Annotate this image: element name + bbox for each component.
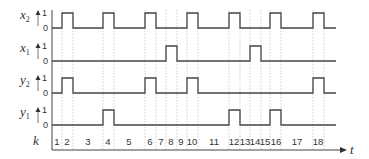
level-high-label: 1 — [42, 8, 47, 18]
arrowhead-icon — [36, 107, 41, 112]
k-tick-label: 13 — [240, 136, 251, 147]
level-high-label: 1 — [42, 41, 47, 51]
signal-label: y2 — [18, 72, 30, 89]
k-tick-label: 18 — [313, 136, 324, 147]
grid-lines — [62, 10, 324, 150]
k-tick-label: 6 — [147, 136, 152, 147]
k-tick-label: 4 — [105, 136, 110, 147]
level-low-label: 0 — [43, 88, 48, 98]
k-tick-label: 10 — [187, 136, 198, 147]
arrowhead-icon — [36, 10, 41, 15]
k-tick-label: 15 — [260, 136, 271, 147]
waveforms — [52, 13, 336, 125]
k-tick-label: 17 — [292, 136, 303, 147]
waveform-x2 — [52, 13, 336, 28]
level-low-label: 0 — [43, 56, 48, 66]
arrowhead-icon — [36, 75, 41, 80]
arrow-right-icon — [340, 147, 347, 153]
t-label: t — [350, 142, 354, 157]
k-label: k — [33, 133, 39, 148]
k-tick-label: 7 — [158, 136, 163, 147]
level-low-label: 0 — [43, 23, 48, 33]
waveform-y2 — [52, 78, 336, 93]
k-tick-label: 16 — [271, 136, 282, 147]
signal-labels: x210x110y210y110 — [18, 7, 48, 130]
waveform-y1 — [52, 110, 336, 125]
level-low-label: 0 — [43, 120, 48, 130]
k-tick-label: 14 — [250, 136, 261, 147]
arrowhead-icon — [36, 43, 41, 48]
k-tick-label: 5 — [126, 136, 131, 147]
timing-diagram: x210x110y210y110 tk123456789101112131415… — [0, 0, 369, 159]
k-tick-label: 11 — [209, 136, 219, 147]
k-tick-label: 2 — [64, 136, 69, 147]
k-tick-label: 12 — [229, 136, 240, 147]
time-axis: tk123456789101112131415161718 — [33, 10, 354, 157]
signal-label: y1 — [18, 104, 30, 121]
level-high-label: 1 — [42, 73, 47, 83]
k-tick-label: 9 — [178, 136, 183, 147]
waveform-x1 — [52, 46, 336, 61]
k-tick-label: 1 — [54, 136, 59, 147]
level-high-label: 1 — [42, 105, 47, 115]
k-tick-label: 8 — [168, 136, 173, 147]
signal-label: x2 — [19, 7, 30, 24]
k-tick-label: 3 — [85, 136, 90, 147]
signal-label: x1 — [19, 40, 30, 57]
